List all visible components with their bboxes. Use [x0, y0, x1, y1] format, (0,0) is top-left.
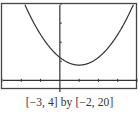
viewing-window-frame	[2, 4, 137, 89]
parabola-curve	[25, 5, 133, 65]
axes	[2, 4, 137, 92]
window-caption: [−3, 4] by [−2, 20]	[0, 96, 139, 108]
graphing-calculator-window	[0, 0, 139, 92]
